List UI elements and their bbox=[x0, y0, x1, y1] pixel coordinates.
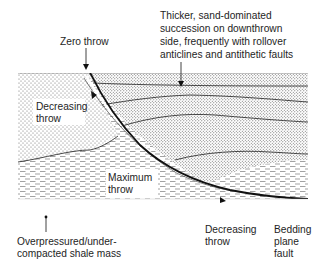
svg-text:compacted shale mass: compacted shale mass bbox=[17, 248, 121, 259]
svg-text:fault: fault bbox=[274, 248, 293, 259]
svg-text:Maximum: Maximum bbox=[108, 172, 152, 183]
shale-leader-dot bbox=[45, 216, 48, 219]
svg-text:throw: throw bbox=[205, 236, 231, 247]
svg-text:throw: throw bbox=[108, 184, 134, 195]
bedding-plane-fault-label: Bedding plane fault bbox=[274, 224, 312, 259]
svg-text:plane: plane bbox=[274, 236, 299, 247]
svg-text:succession on downthrown: succession on downthrown bbox=[160, 23, 282, 34]
decreasing-throw-lower-label: Decreasing throw bbox=[205, 224, 257, 247]
svg-text:side, frequently with rollover: side, frequently with rollover bbox=[160, 36, 287, 47]
growth-fault-diagram: Zero throw Thicker, sand-dominated succe… bbox=[0, 0, 326, 269]
zero-throw-arrowhead bbox=[83, 64, 89, 70]
thicker-succession-label: Thicker, sand-dominated succession on do… bbox=[160, 10, 293, 60]
svg-text:throw: throw bbox=[36, 113, 62, 124]
svg-text:Decreasing: Decreasing bbox=[205, 224, 257, 235]
svg-text:Bedding: Bedding bbox=[274, 224, 312, 235]
zero-throw-label: Zero throw bbox=[60, 36, 109, 47]
svg-text:anticlines and antithetic faul: anticlines and antithetic faults bbox=[160, 49, 293, 60]
svg-text:Decreasing: Decreasing bbox=[36, 101, 88, 112]
svg-text:Thicker, sand-dominated: Thicker, sand-dominated bbox=[160, 10, 272, 21]
cross-section bbox=[18, 64, 308, 199]
shale-mass-label: Overpressured/under- compacted shale mas… bbox=[17, 236, 121, 259]
svg-text:Overpressured/under-: Overpressured/under- bbox=[17, 236, 117, 247]
